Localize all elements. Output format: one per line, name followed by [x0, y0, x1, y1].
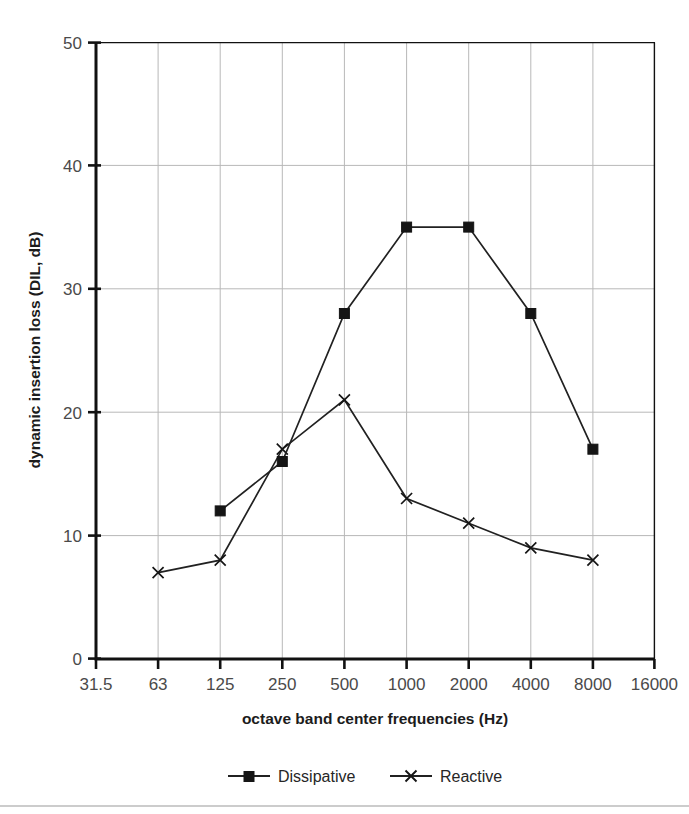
x-tick-label-250: 250: [268, 675, 296, 694]
y-tick-label-30: 30: [63, 280, 82, 299]
filled-square-icon: [244, 771, 255, 782]
x-tick-label-2000: 2000: [450, 675, 488, 694]
marker-dissipative-500: [339, 309, 349, 319]
y-tick-label-10: 10: [63, 527, 82, 546]
x-tick-label-31_5: 31.5: [79, 675, 112, 694]
y-tick-label-20: 20: [63, 404, 82, 423]
x-tick-label-4000: 4000: [512, 675, 550, 694]
x-axis-title: octave band center frequencies (Hz): [242, 710, 508, 727]
x-tick-label-16000: 16000: [631, 675, 678, 694]
x-tick-label-500: 500: [330, 675, 358, 694]
chart-figure: 50 40 30 20 10 0 31.5 63 125 250 500 100…: [0, 0, 689, 814]
legend-label-dissipative: Dissipative: [278, 768, 355, 785]
y-axis-title: dynamic insertion loss (DIL, dB): [26, 232, 43, 469]
y-tick-label-40: 40: [63, 157, 82, 176]
x-tick-label-63: 63: [149, 675, 168, 694]
marker-dissipative-1000: [402, 222, 412, 232]
legend-label-reactive: Reactive: [440, 768, 502, 785]
x-tick-label-125: 125: [206, 675, 234, 694]
x-tick-label-8000: 8000: [574, 675, 612, 694]
marker-dissipative-250: [277, 457, 287, 467]
marker-dissipative-2000: [464, 222, 474, 232]
x-tick-label-1000: 1000: [388, 675, 426, 694]
y-tick-label-50: 50: [63, 34, 82, 53]
marker-dissipative-8000: [588, 444, 598, 454]
marker-dissipative-125: [215, 506, 225, 516]
y-tick-label-0: 0: [73, 650, 82, 669]
chart-canvas: 50 40 30 20 10 0 31.5 63 125 250 500 100…: [0, 0, 689, 814]
marker-dissipative-4000: [526, 309, 536, 319]
